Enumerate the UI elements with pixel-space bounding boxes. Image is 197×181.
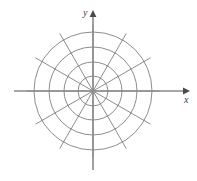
polar-grid-canvas bbox=[0, 0, 197, 181]
polar-grid-figure: y x bbox=[0, 0, 197, 181]
y-axis-label: y bbox=[83, 8, 87, 18]
axis-group bbox=[14, 10, 190, 170]
y-axis-arrowhead bbox=[90, 10, 97, 17]
x-axis-label: x bbox=[184, 95, 188, 105]
